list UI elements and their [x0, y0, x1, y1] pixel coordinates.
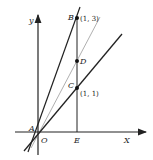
line-AC — [24, 34, 122, 151]
point-C — [75, 86, 79, 90]
point-B — [75, 16, 79, 20]
label-C: C — [68, 81, 74, 90]
coord-C: (1, 1) — [80, 90, 99, 98]
y-axis-label: y — [28, 16, 34, 25]
line-AB — [28, 7, 80, 152]
point-D — [75, 59, 79, 63]
label-E: E — [73, 136, 80, 145]
line-AD — [31, 17, 100, 148]
label-O: O — [41, 136, 48, 145]
x-axis-label: X — [123, 136, 130, 145]
coordinate-diagram: y X A O B (1, 3) D C (1, 1) E — [0, 0, 153, 160]
label-A: A — [28, 124, 35, 133]
coord-B: (1, 3) — [80, 15, 99, 23]
label-B: B — [67, 13, 74, 22]
label-D: D — [79, 57, 87, 66]
